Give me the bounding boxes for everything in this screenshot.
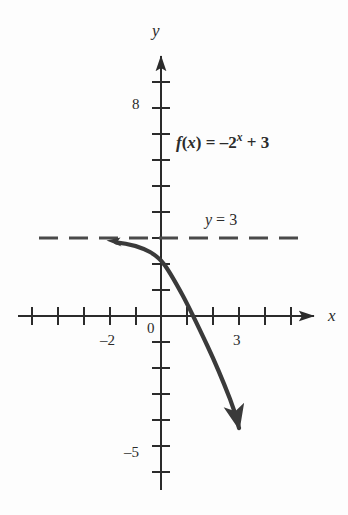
graph-figure: y x 8 –5 0 –2 3 f(x) = –2x + 3 y = 3 <box>0 0 348 515</box>
x-axis-label: x <box>328 307 336 324</box>
y-axis-label: y <box>152 22 160 39</box>
equation-argument: x <box>187 133 196 152</box>
equation-suffix: + 3 <box>242 133 269 152</box>
asymptote-label: y = 3 <box>205 212 237 228</box>
asymptote-value: = 3 <box>212 211 237 228</box>
y-tick-label-8: 8 <box>132 97 140 112</box>
x-tick-label-3: 3 <box>233 333 241 348</box>
x-tick-label-neg2: –2 <box>100 333 115 348</box>
origin-label: 0 <box>147 321 155 336</box>
function-equation-label: f(x) = –2x + 3 <box>176 134 269 151</box>
function-curve <box>116 242 239 428</box>
equation-equals-base: = –2 <box>202 133 237 152</box>
y-tick-label-neg5: –5 <box>124 445 139 460</box>
coordinate-plane-svg <box>0 0 348 515</box>
